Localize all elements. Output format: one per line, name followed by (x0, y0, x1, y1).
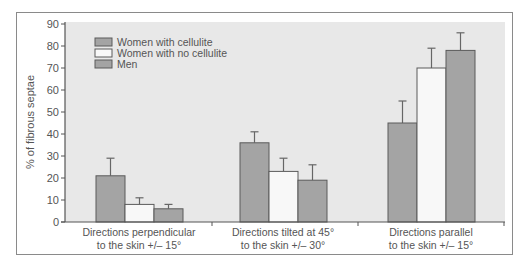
y-axis-label: % of fibrous septae (24, 75, 36, 169)
bar (298, 180, 327, 222)
bar (269, 171, 298, 222)
category-label: to the skin +/– 15° (97, 239, 181, 251)
bar (388, 123, 417, 222)
y-tick-label: 70 (47, 62, 59, 74)
category-label: to the skin +/– 30° (241, 239, 325, 251)
category-label: to the skin +/– 15° (389, 239, 473, 251)
y-tick-label: 20 (47, 172, 59, 184)
legend-swatch (95, 49, 112, 57)
legend-swatch (95, 60, 112, 68)
y-tick-label: 0 (53, 216, 59, 228)
bar (154, 209, 183, 222)
category-label: Directions parallel (389, 226, 472, 238)
y-tick-label: 40 (47, 128, 59, 140)
y-tick-label: 30 (47, 150, 59, 162)
bar (240, 143, 269, 222)
y-tick-label: 50 (47, 106, 59, 118)
bar (446, 50, 475, 222)
category-label: Directions tilted at 45° (232, 226, 334, 238)
category-label: Directions perpendicular (82, 226, 196, 238)
bar-chart: Directions perpendicularto the skin +/– … (0, 0, 529, 269)
y-tick-label: 60 (47, 84, 59, 96)
y-tick-label: 80 (47, 40, 59, 52)
legend-label: Men (117, 58, 138, 70)
bar (417, 68, 446, 222)
legend-swatch (95, 38, 112, 46)
y-tick-label: 90 (47, 18, 59, 30)
bar (96, 176, 125, 222)
bar (125, 204, 154, 222)
y-tick-label: 10 (47, 194, 59, 206)
